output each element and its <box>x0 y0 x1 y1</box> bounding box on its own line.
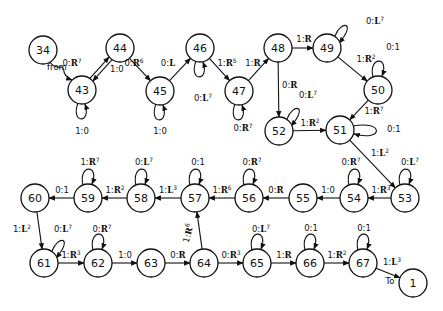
state-node-58: 58 <box>127 184 155 212</box>
state-label: 43 <box>75 84 89 97</box>
transition-label: 1:R2 <box>300 117 319 129</box>
transition-58-58 <box>135 169 147 185</box>
transition-label: 0:L7 <box>299 89 317 101</box>
state-node-61: 61 <box>30 249 58 277</box>
state-node-65: 65 <box>243 249 271 277</box>
transition-label: 0:R6 <box>124 57 143 69</box>
transition-57-57 <box>189 169 201 185</box>
transition-label: 1:R <box>276 250 292 260</box>
transition-label: 0:R7 <box>62 57 81 69</box>
state-node-53: 53 <box>391 184 419 212</box>
transition-label: 1:0 <box>321 185 335 195</box>
transition-label: 1:R2 <box>356 53 375 65</box>
transition-label: 1:0 <box>153 126 167 136</box>
state-label: 47 <box>232 85 246 98</box>
transition-label: 1:R2 <box>327 249 346 261</box>
transition-65-65 <box>251 234 263 250</box>
state-node-66: 66 <box>296 249 324 277</box>
state-label: 62 <box>91 257 105 270</box>
transition-label: 0:L7 <box>401 156 419 168</box>
transition-label: 0:1 <box>386 42 400 52</box>
state-label: 57 <box>188 192 202 205</box>
state-label: 49 <box>320 42 334 55</box>
transition-43-43 <box>76 103 86 119</box>
transition-label: 1:R6 <box>212 184 231 196</box>
state-label: 61 <box>37 257 51 270</box>
transition-52-51 <box>293 130 326 131</box>
transition-label: 1:0 <box>75 126 89 136</box>
state-label: 51 <box>333 124 347 137</box>
transition-label: 1:0 <box>118 250 132 260</box>
transition-66-66 <box>304 234 316 250</box>
state-node-60: 60 <box>21 184 49 212</box>
state-node-45: 45 <box>146 77 174 105</box>
transition-label: 0:1 <box>191 157 205 167</box>
state-label: 60 <box>28 192 42 205</box>
state-label: 65 <box>250 257 264 270</box>
state-label: 67 <box>356 257 370 270</box>
state-label: 55 <box>296 192 310 205</box>
transition-label: 1:R <box>296 34 312 44</box>
state-label: 66 <box>303 257 317 270</box>
state-node-34: 34 <box>29 36 57 64</box>
transition-label: 0:R <box>170 250 186 260</box>
transition-54-54 <box>348 169 360 185</box>
state-node-55: 55 <box>289 184 317 212</box>
state-node-57: 57 <box>181 184 209 212</box>
transition-59-59 <box>82 169 94 185</box>
transition-label: 0:L7 <box>54 223 72 235</box>
transition-label: 1:R6 <box>179 222 195 244</box>
state-label: 50 <box>371 84 385 97</box>
transition-label: 0:1 <box>55 185 69 195</box>
transition-label: 1:L3 <box>383 256 401 268</box>
state-node-64: 64 <box>190 249 218 277</box>
transition-label: 1:R7 <box>364 105 383 117</box>
state-label: 59 <box>81 192 95 205</box>
transition-label: 0:R <box>268 185 284 195</box>
transition-46-46 <box>194 61 204 77</box>
transition-62-62 <box>92 234 104 250</box>
transition-43-44 <box>90 57 109 78</box>
transition-label: 0:1 <box>304 223 318 233</box>
transition-label: 0:L7 <box>366 15 384 27</box>
transition-label: 1:R3 <box>61 249 80 261</box>
transition-label: 0:R7 <box>233 122 252 134</box>
transition-label: 0:L <box>161 58 175 68</box>
transition-label: 1:L2 <box>371 147 389 159</box>
transition-label: 0:R3 <box>221 249 240 261</box>
transition-label: 1:R7 <box>80 156 99 168</box>
transition-label: 1:R <box>245 58 261 68</box>
state-node-62: 62 <box>84 249 112 277</box>
transition-47-47 <box>233 104 243 120</box>
transition-64-57 <box>197 212 202 249</box>
state-node-1: 1 <box>399 269 427 297</box>
state-node-50: 50 <box>364 76 392 104</box>
state-label: 34 <box>36 44 50 57</box>
state-node-48: 48 <box>264 34 292 62</box>
transition-label: 1:R5 <box>217 57 236 69</box>
state-node-47: 47 <box>225 77 253 105</box>
transition-label: 1:R2 <box>105 184 124 196</box>
transition-label: 0:L7 <box>194 92 212 104</box>
state-diagram: 3443444546474849505152535455565758596061… <box>0 0 443 311</box>
state-label: 58 <box>134 192 148 205</box>
transition-60-61 <box>37 212 42 249</box>
state-label: 56 <box>242 192 256 205</box>
transition-48-52 <box>278 62 279 117</box>
state-label: 46 <box>193 42 207 55</box>
state-node-67: 67 <box>349 249 377 277</box>
state-node-49: 49 <box>313 34 341 62</box>
transition-53-53 <box>399 169 411 185</box>
transition-67-67 <box>357 234 369 250</box>
transition-label: 0:R <box>282 80 298 90</box>
state-label: 64 <box>197 257 211 270</box>
state-label: 54 <box>347 192 361 205</box>
state-node-51: 51 <box>326 116 354 144</box>
state-label: 63 <box>144 257 158 270</box>
transition-label: 0:1 <box>387 124 401 134</box>
state-node-59: 59 <box>74 184 102 212</box>
transition-label: 0:R7 <box>242 156 261 168</box>
state-label: 44 <box>113 42 127 55</box>
state-label: 48 <box>271 42 285 55</box>
state-label: 52 <box>272 125 286 138</box>
